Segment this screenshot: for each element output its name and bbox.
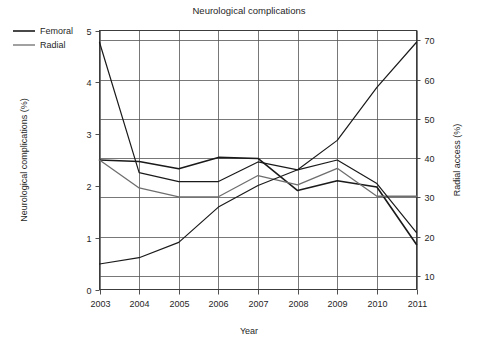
x-axis-tick-label: 2006 <box>208 299 228 309</box>
figure-background <box>0 0 478 348</box>
left-axis-tick-label: 1 <box>86 234 91 244</box>
right-axis-tick-label: 70 <box>425 36 435 46</box>
x-axis-tick-label: 2005 <box>169 299 189 309</box>
right-axis-tick-label: 60 <box>425 76 435 86</box>
x-axis-tick-label: 2011 <box>408 299 427 309</box>
left-axis-tick-label: 2 <box>86 182 91 192</box>
x-axis-tick-label: 2009 <box>327 299 347 309</box>
left-axis-tick-label: 4 <box>86 78 91 88</box>
right-axis-tick-label: 40 <box>425 154 435 164</box>
right-axis-tick-label: 30 <box>425 193 435 203</box>
legend-label: Radial <box>40 40 66 50</box>
left-axis-tick-label: 0 <box>86 286 91 296</box>
right-axis-tick-label: 20 <box>425 233 435 243</box>
right-axis-tick-label: 10 <box>425 272 435 282</box>
x-axis-tick-label: 2003 <box>90 299 110 309</box>
chart-title: Neurological complications <box>193 5 306 16</box>
right-axis-tick-label: 50 <box>425 115 435 125</box>
x-axis-tick-label: 2010 <box>367 299 387 309</box>
left-axis-title: Neurological complications (%) <box>19 98 29 222</box>
chart-figure: Neurological complications FemoralRadial… <box>0 0 478 348</box>
left-axis-tick-label: 3 <box>86 130 91 140</box>
legend-label: Femoral <box>40 26 73 36</box>
x-axis-tick-label: 2007 <box>248 299 268 309</box>
x-axis-tick-label: 2008 <box>288 299 308 309</box>
x-axis-tick-label: 2004 <box>129 299 149 309</box>
neurological-complications-line-chart: Neurological complications FemoralRadial… <box>0 0 478 348</box>
right-axis-title: Radial access (%) <box>452 124 462 197</box>
x-axis-title: Year <box>240 326 258 336</box>
left-axis-tick-label: 5 <box>86 27 91 37</box>
